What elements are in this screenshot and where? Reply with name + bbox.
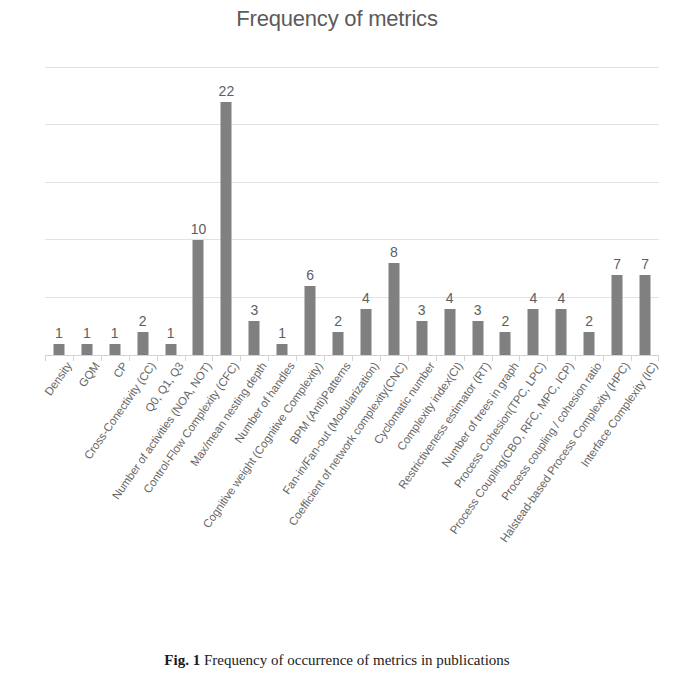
bar-value-label: 3 [250, 303, 258, 317]
bar-value-label: 1 [55, 326, 63, 340]
bar-column: 3 [464, 68, 492, 355]
bar [500, 332, 511, 355]
bar [612, 275, 623, 355]
bar-value-label: 7 [613, 257, 621, 271]
bar [277, 344, 288, 355]
bar [305, 286, 316, 355]
bar [444, 309, 455, 355]
bar-value-label: 1 [278, 326, 286, 340]
bar [109, 344, 120, 355]
bar-column: 7 [631, 68, 659, 355]
bar-column: 4 [436, 68, 464, 355]
bar-column: 2 [324, 68, 352, 355]
bar-column: 4 [547, 68, 575, 355]
bar-value-label: 6 [306, 268, 314, 282]
category-label: Density [42, 360, 73, 398]
x-axis-category-labels: DensityGQMCPCross-Conectivity (CC)Q0, Q1… [45, 358, 659, 608]
bar-value-label: 3 [418, 303, 426, 317]
bar-value-label: 4 [446, 291, 454, 305]
bar-value-label: 2 [334, 314, 342, 328]
bar-column: 2 [129, 68, 157, 355]
bar-value-label: 8 [390, 245, 398, 259]
figure-number: Fig. 1 [164, 652, 200, 668]
bar-value-label: 10 [191, 222, 207, 236]
bar [528, 309, 539, 355]
bar [221, 102, 232, 355]
bar-value-label: 7 [641, 257, 649, 271]
bar-value-label: 4 [557, 291, 565, 305]
bar-value-label: 2 [139, 314, 147, 328]
bar-column: 8 [380, 68, 408, 355]
bar-value-label: 4 [362, 291, 370, 305]
bar-column: 1 [268, 68, 296, 355]
bar [556, 309, 567, 355]
bar-value-label: 22 [219, 84, 235, 98]
bar-column: 1 [157, 68, 185, 355]
bar-column: 7 [603, 68, 631, 355]
bar [81, 344, 92, 355]
bar-column: 2 [492, 68, 520, 355]
bar [53, 344, 64, 355]
chart-title: Frequency of metrics [0, 6, 674, 32]
bar [416, 321, 427, 355]
bar-value-label: 1 [111, 326, 119, 340]
bar-value-label: 1 [167, 326, 175, 340]
figure-container: Frequency of metrics 1112110223162483432… [0, 0, 674, 677]
plot-area: 111211022316248343244277 [45, 68, 659, 355]
bar-column: 4 [352, 68, 380, 355]
bar-column: 1 [45, 68, 73, 355]
bar-column: 4 [519, 68, 547, 355]
bar [165, 344, 176, 355]
bar [584, 332, 595, 355]
caption-text: Frequency of occurrence of metrics in pu… [204, 652, 510, 668]
category-label: GQM [76, 360, 101, 389]
bar-column: 2 [575, 68, 603, 355]
bar [137, 332, 148, 355]
bar-value-label: 1 [83, 326, 91, 340]
bar-column: 3 [408, 68, 436, 355]
bar [472, 321, 483, 355]
bar-column: 1 [73, 68, 101, 355]
bar-column: 6 [296, 68, 324, 355]
figure-caption: Fig. 1 Frequency of occurrence of metric… [0, 652, 674, 669]
bar-value-label: 2 [585, 314, 593, 328]
bar [249, 321, 260, 355]
bar-column: 1 [101, 68, 129, 355]
bar-value-label: 2 [502, 314, 510, 328]
category-label: CP [111, 360, 130, 380]
bar [360, 309, 371, 355]
bar-column: 10 [185, 68, 213, 355]
bar-value-label: 3 [474, 303, 482, 317]
bar-column: 22 [212, 68, 240, 355]
bar-column: 3 [240, 68, 268, 355]
bar-value-label: 4 [530, 291, 538, 305]
bar [333, 332, 344, 355]
bar [193, 240, 204, 355]
bar [640, 275, 651, 355]
bar [388, 263, 399, 355]
